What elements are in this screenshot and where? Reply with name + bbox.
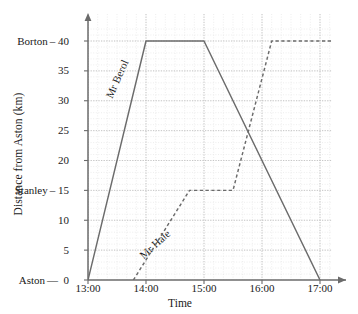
y-axis-arrow-icon <box>85 13 92 21</box>
axis-ticks <box>84 41 320 284</box>
distance-time-chart: Distance from Aston (km) Borton– 40 35 3… <box>0 0 358 314</box>
axis-arrowheads <box>85 13 346 283</box>
plot-surface <box>0 0 358 314</box>
x-axis-arrow-icon <box>338 277 346 284</box>
